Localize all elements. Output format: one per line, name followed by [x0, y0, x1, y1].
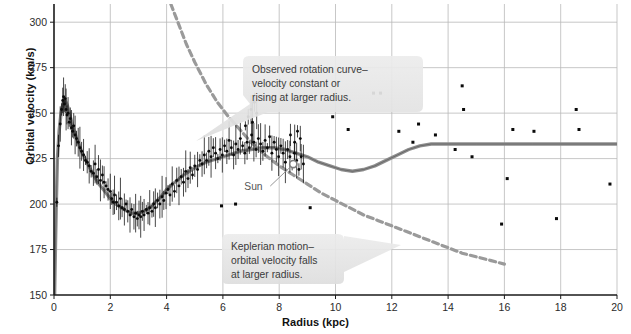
- x-tick-label: 20: [611, 301, 623, 313]
- plot-canvas: Observed rotation curve– velocity consta…: [0, 0, 631, 334]
- data-point: [78, 146, 81, 149]
- data-point: [264, 139, 267, 142]
- data-point: [125, 203, 128, 206]
- data-point: [296, 130, 299, 133]
- data-point: [608, 183, 611, 186]
- data-point: [210, 155, 213, 158]
- data-point: [193, 164, 196, 167]
- keplerian-callout-line3: at larger radius.: [231, 269, 303, 280]
- data-point: [191, 174, 194, 177]
- data-point: [105, 184, 108, 187]
- data-point: [223, 144, 226, 147]
- data-point: [532, 130, 535, 133]
- data-point: [169, 194, 172, 197]
- data-point: [234, 203, 237, 206]
- data-point: [175, 179, 178, 182]
- data-point: [196, 168, 199, 171]
- data-point: [331, 115, 334, 118]
- data-point: [511, 128, 514, 131]
- data-point: [302, 163, 305, 166]
- data-point: [214, 152, 217, 155]
- data-point: [187, 177, 190, 180]
- data-point: [147, 212, 150, 215]
- data-point: [92, 172, 95, 175]
- data-point: [134, 212, 137, 215]
- data-point: [126, 210, 129, 213]
- x-tick-label: 18: [555, 301, 567, 313]
- data-point: [94, 163, 97, 166]
- data-point: [219, 148, 222, 151]
- data-point: [161, 195, 164, 198]
- data-point: [107, 188, 110, 191]
- data-point: [286, 148, 289, 151]
- keplerian-callout-line1: Keplerian motion–: [231, 241, 314, 252]
- data-point: [101, 174, 104, 177]
- data-point: [115, 201, 118, 204]
- data-point: [112, 201, 115, 204]
- data-point: [201, 163, 204, 166]
- data-point: [123, 208, 126, 211]
- data-point: [279, 144, 282, 147]
- data-point: [220, 204, 223, 207]
- data-point: [282, 152, 285, 155]
- sun-position-marker: [290, 160, 297, 167]
- data-point: [141, 210, 144, 213]
- x-tick-label: 8: [276, 301, 282, 313]
- data-point: [136, 217, 139, 220]
- data-point: [77, 141, 80, 144]
- data-point: [117, 204, 120, 207]
- data-point: [230, 146, 233, 149]
- observed-callout-line3: rising at larger radius.: [252, 92, 351, 103]
- data-point: [266, 146, 269, 149]
- data-point: [139, 215, 142, 218]
- data-point: [257, 137, 260, 140]
- x-tick-label: 4: [164, 301, 170, 313]
- data-point: [113, 194, 116, 197]
- x-tick-label: 12: [386, 301, 398, 313]
- data-point: [207, 150, 210, 153]
- data-point: [270, 152, 273, 155]
- data-point: [228, 139, 231, 142]
- data-point: [189, 166, 192, 169]
- data-point: [129, 214, 132, 217]
- data-point: [151, 210, 154, 213]
- data-point: [72, 124, 75, 127]
- data-point: [277, 155, 280, 158]
- data-point: [411, 141, 414, 144]
- data-point: [205, 159, 208, 162]
- data-point: [55, 201, 58, 204]
- data-point: [148, 206, 151, 209]
- data-point: [506, 177, 509, 180]
- data-point: [347, 128, 350, 131]
- data-point: [288, 155, 291, 158]
- data-point: [109, 190, 112, 193]
- data-point: [212, 146, 215, 149]
- data-point: [110, 197, 113, 200]
- data-point: [198, 159, 201, 162]
- sun-label: Sun: [244, 181, 263, 192]
- data-point: [145, 208, 148, 211]
- data-point: [162, 199, 165, 202]
- data-point: [165, 192, 168, 195]
- data-point: [86, 161, 89, 164]
- data-point: [244, 124, 247, 127]
- data-point: [152, 203, 155, 206]
- data-point: [156, 199, 159, 202]
- data-point: [500, 223, 503, 226]
- x-tick-label: 16: [499, 301, 511, 313]
- data-point: [88, 164, 91, 167]
- data-point: [225, 150, 228, 153]
- y-tick-label: 175: [29, 243, 47, 255]
- rotation-curve-figure: Orbital velocity (km/s) Radius (kpc) Obs…: [0, 0, 631, 334]
- data-point: [434, 133, 437, 136]
- data-point: [275, 148, 278, 151]
- data-point: [119, 197, 122, 200]
- x-tick-label: 6: [220, 301, 226, 313]
- data-point: [248, 146, 251, 149]
- data-point: [555, 217, 558, 220]
- data-point: [216, 157, 219, 160]
- data-point: [237, 148, 240, 151]
- y-tick-label: 200: [29, 198, 47, 210]
- data-point: [178, 184, 181, 187]
- data-point: [82, 154, 85, 157]
